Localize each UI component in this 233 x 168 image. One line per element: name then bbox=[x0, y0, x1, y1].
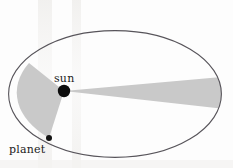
scan-smudge-bottom bbox=[0, 160, 233, 168]
planet-dot-icon bbox=[46, 135, 52, 141]
sun-label: sun bbox=[54, 73, 74, 84]
planet-label: planet bbox=[9, 144, 45, 155]
sun-dot-icon bbox=[58, 85, 70, 97]
orbit-diagram-figure: sun planet bbox=[0, 0, 233, 168]
